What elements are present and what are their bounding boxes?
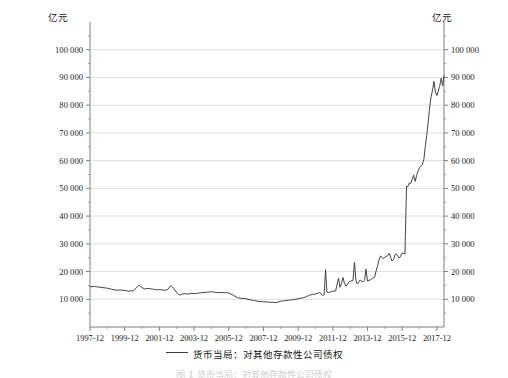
svg-text:90 000: 90 000 bbox=[59, 72, 83, 82]
svg-text:2017-12: 2017-12 bbox=[423, 334, 451, 343]
svg-text:10 000: 10 000 bbox=[451, 294, 475, 304]
svg-text:2003-12: 2003-12 bbox=[180, 334, 208, 343]
chart-legend: 货币当局：对其他存款性公司债权 bbox=[0, 347, 508, 361]
svg-text:50 000: 50 000 bbox=[59, 183, 83, 193]
svg-text:70 000: 70 000 bbox=[451, 128, 475, 138]
y-axis-left-ticks: 10 00020 00030 00040 00050 00060 00070 0… bbox=[55, 36, 90, 313]
svg-text:2005-12: 2005-12 bbox=[215, 334, 243, 343]
legend-line-swatch bbox=[166, 352, 188, 353]
svg-text:2013-12: 2013-12 bbox=[354, 334, 382, 343]
gridlines bbox=[91, 50, 443, 300]
svg-text:90 000: 90 000 bbox=[451, 72, 475, 82]
svg-text:2001-12: 2001-12 bbox=[145, 334, 173, 343]
x-axis-ticks: 1997-121999-122001-122003-122005-122007-… bbox=[76, 327, 451, 343]
figure-caption: 图 1 货币当局：对其他存款性公司债权 bbox=[0, 368, 508, 378]
svg-text:20 000: 20 000 bbox=[59, 267, 83, 277]
svg-text:1999-12: 1999-12 bbox=[111, 334, 139, 343]
svg-text:2015-12: 2015-12 bbox=[388, 334, 416, 343]
svg-text:2007-12: 2007-12 bbox=[249, 334, 277, 343]
svg-text:20 000: 20 000 bbox=[451, 267, 475, 277]
y-axis-right-ticks: 10 00020 00030 00040 00050 00060 00070 0… bbox=[444, 36, 479, 313]
svg-text:100 000: 100 000 bbox=[55, 45, 83, 55]
svg-text:80 000: 80 000 bbox=[59, 100, 83, 110]
svg-text:80 000: 80 000 bbox=[451, 100, 475, 110]
svg-text:60 000: 60 000 bbox=[451, 156, 475, 166]
data-series-layer bbox=[90, 76, 444, 303]
line-chart-plot: 10 00020 00030 00040 00050 00060 00070 0… bbox=[0, 0, 508, 378]
svg-text:60 000: 60 000 bbox=[59, 156, 83, 166]
chart-root: 亿元 亿元 10 00020 00030 00040 00050 00060 0… bbox=[0, 0, 508, 378]
svg-text:30 000: 30 000 bbox=[59, 239, 83, 249]
svg-text:70 000: 70 000 bbox=[59, 128, 83, 138]
svg-text:40 000: 40 000 bbox=[451, 211, 475, 221]
svg-text:10 000: 10 000 bbox=[59, 294, 83, 304]
svg-text:50 000: 50 000 bbox=[451, 183, 475, 193]
svg-text:1997-12: 1997-12 bbox=[76, 334, 104, 343]
svg-text:2009-12: 2009-12 bbox=[284, 334, 312, 343]
svg-text:2011-12: 2011-12 bbox=[319, 334, 347, 343]
svg-text:100 000: 100 000 bbox=[451, 45, 479, 55]
legend-series-label: 货币当局：对其他存款性公司债权 bbox=[193, 349, 343, 360]
series-line-0 bbox=[90, 76, 444, 303]
axis-lines bbox=[90, 22, 444, 327]
svg-text:40 000: 40 000 bbox=[59, 211, 83, 221]
svg-text:30 000: 30 000 bbox=[451, 239, 475, 249]
